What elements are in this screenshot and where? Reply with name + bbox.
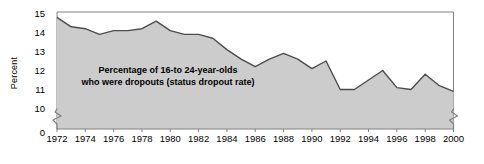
x-tick-label: 1996 xyxy=(386,133,407,144)
y-tick-label: 11 xyxy=(35,84,45,95)
x-tick-label: 1980 xyxy=(160,133,181,144)
x-tick-label: 2000 xyxy=(443,133,464,144)
y-tick-label: 0 xyxy=(40,127,45,138)
y-tick-label: 15 xyxy=(34,8,45,19)
x-tick-label: 1982 xyxy=(188,133,209,144)
y-tick-label: 13 xyxy=(34,46,45,57)
x-tick-label: 1994 xyxy=(358,133,379,144)
x-tick-label: 1992 xyxy=(330,133,351,144)
y-tick-label: 14 xyxy=(34,27,45,38)
x-tick-label: 1972 xyxy=(46,133,67,144)
x-tick-label: 1976 xyxy=(103,133,124,144)
annotation-line-2: who were dropouts (status dropout rate) xyxy=(80,77,254,87)
figure-container: Percent 0101112131415 197219741976197819… xyxy=(0,0,484,164)
y-axis-ticks: 0101112131415 xyxy=(34,8,45,138)
x-tick-label: 1986 xyxy=(245,133,266,144)
x-tick-label: 1974 xyxy=(75,133,96,144)
annotation-line-1: Percentage of 16-to 24-year-olds xyxy=(98,65,237,75)
x-tick-label: 1988 xyxy=(273,133,294,144)
area-chart: 0101112131415 19721974197619781980198219… xyxy=(0,0,484,164)
x-tick-label: 1998 xyxy=(415,133,436,144)
x-tick-label: 1978 xyxy=(131,133,152,144)
x-tick-label: 1990 xyxy=(301,133,322,144)
x-tick-label: 1984 xyxy=(216,133,237,144)
y-tick-label: 10 xyxy=(34,103,45,114)
y-tick-label: 12 xyxy=(34,65,45,76)
x-axis-ticks: 1972197419761978198019821984198619881990… xyxy=(46,129,464,144)
